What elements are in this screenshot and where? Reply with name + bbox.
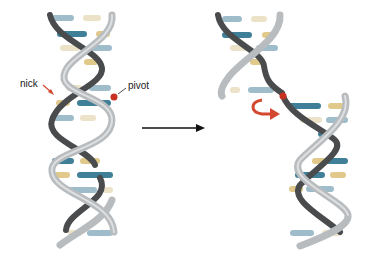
nick-arrow	[43, 85, 54, 95]
transition-arrow	[142, 124, 205, 132]
nick-label: nick	[20, 79, 38, 89]
pivot-label: pivot	[128, 81, 149, 91]
dna-diagram	[0, 0, 366, 255]
pivot-leader-line	[118, 88, 126, 94]
nicked-dna-helix	[218, 15, 348, 246]
pivot-dot-right	[280, 93, 287, 100]
pivot-dot	[111, 94, 118, 101]
rotation-arrow	[253, 100, 280, 120]
intact-dna-helix	[43, 15, 126, 245]
